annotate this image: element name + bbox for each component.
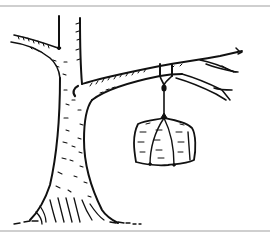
- tree-bag-illustration: [0, 0, 275, 236]
- ground-line: [14, 221, 141, 224]
- twigs: [176, 48, 242, 100]
- rope: [160, 64, 172, 118]
- right-branch: [82, 51, 242, 100]
- illustration-frame: Bag hanging from a tree branch by a rope: [0, 0, 275, 236]
- tree-trunk: [30, 16, 118, 223]
- tree-roots: [36, 198, 104, 224]
- left-branch: [11, 35, 60, 78]
- hanging-bag: [134, 118, 195, 166]
